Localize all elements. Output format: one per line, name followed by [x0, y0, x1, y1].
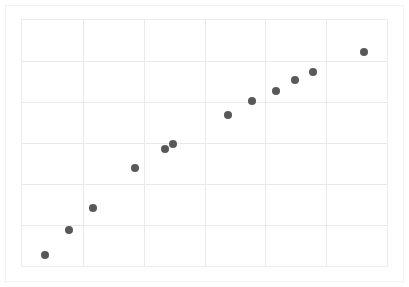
data-point: [360, 48, 368, 56]
data-point: [272, 87, 280, 95]
data-point: [224, 111, 232, 119]
data-point: [169, 140, 177, 148]
data-points-layer: [22, 20, 387, 266]
plot-area: [21, 19, 388, 267]
data-point: [291, 76, 299, 84]
data-point: [131, 164, 139, 172]
scatter-plot-figure: [0, 0, 409, 287]
data-point: [65, 226, 73, 234]
data-point: [161, 145, 169, 153]
data-point: [248, 97, 256, 105]
data-point: [89, 204, 97, 212]
data-point: [309, 68, 317, 76]
data-point: [41, 251, 49, 259]
